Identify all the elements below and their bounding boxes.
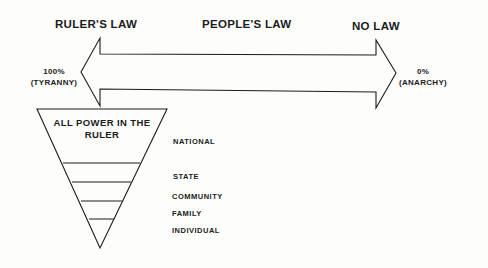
- tyranny-text: (TYRANNY): [24, 77, 84, 88]
- pyramid-apex-label: ALL POWER IN THE RULER: [37, 117, 167, 141]
- header-peoples-law: PEOPLE'S LAW: [202, 18, 291, 30]
- anarchy-label: 0% (ANARCHY): [393, 66, 453, 88]
- level-family: FAMILY: [172, 209, 202, 218]
- level-individual: INDIVIDUAL: [172, 226, 220, 235]
- tyranny-percent: 100%: [24, 66, 84, 77]
- header-rulers-law: RULER'S LAW: [55, 18, 137, 30]
- level-state: STATE: [173, 172, 199, 181]
- level-community: COMMUNITY: [172, 192, 223, 201]
- anarchy-percent: 0%: [393, 66, 453, 77]
- header-no-law: NO LAW: [352, 20, 400, 32]
- double-headed-arrow: [81, 38, 396, 108]
- anarchy-text: (ANARCHY): [393, 77, 453, 88]
- tyranny-label: 100% (TYRANNY): [24, 66, 84, 88]
- level-national: NATIONAL: [173, 137, 215, 146]
